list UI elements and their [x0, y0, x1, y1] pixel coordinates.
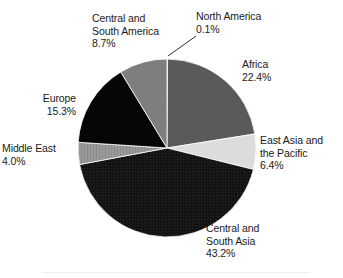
slice-label-africa: Africa 22.4%: [242, 58, 322, 83]
slice-label-central-and-south-asia: Central and South Asia 43.2%: [206, 222, 316, 260]
slice-label-north-america: North America 0.1%: [196, 10, 316, 35]
slice-label-central-and-south-america: Central and South America 8.7%: [92, 12, 202, 50]
pie-chart: Central and South America 8.7% North Ame…: [0, 0, 343, 278]
slice-label-east-asia-and-the-pacific: East Asia and the Pacific 6.4%: [260, 134, 342, 172]
pie-slices-group: [78, 59, 256, 237]
slice-label-europe: Europe 15.3%: [14, 92, 76, 117]
scan-artifact-line: [42, 272, 310, 273]
slice-label-middle-east: Middle East 4.0%: [2, 142, 78, 167]
